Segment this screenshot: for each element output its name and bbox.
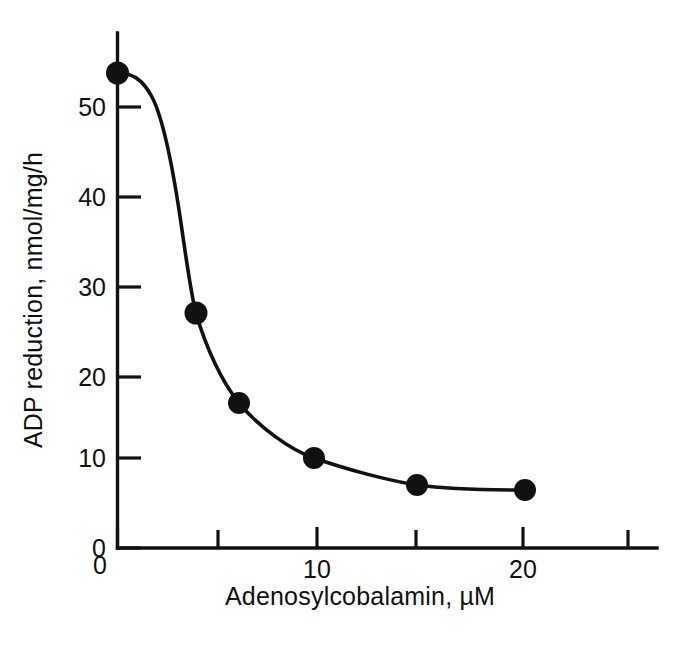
x-tick-label-20: 20	[509, 555, 537, 583]
data-point-marker	[303, 447, 325, 469]
x-axis-title: Adenosylcobalamin, µM	[225, 582, 495, 610]
y-axis-tick-labels: 50 40 30 20 10 0	[78, 93, 106, 562]
x-axis-ticks	[118, 527, 629, 547]
x-axis-tick-labels: 0 10 20	[93, 551, 537, 583]
y-tick-label-10: 10	[78, 444, 106, 472]
data-point-marker	[228, 392, 250, 414]
y-axis-ticks	[118, 107, 141, 548]
chart-plot-area: 50 40 30 20 10 0 0 10 20	[0, 0, 683, 645]
y-tick-label-20: 20	[78, 363, 106, 391]
data-point-marker	[106, 62, 129, 85]
y-axis-title: ADP reduction, nmol/mg/h	[19, 152, 47, 448]
data-curve-line	[118, 73, 526, 490]
data-point-marker	[185, 302, 208, 325]
y-tick-label-50: 50	[78, 93, 106, 121]
data-series-adp-reduction	[106, 62, 536, 502]
axis-lines	[118, 33, 658, 548]
y-tick-label-40: 40	[78, 183, 106, 211]
x-tick-label-10: 10	[303, 555, 331, 583]
y-tick-label-30: 30	[78, 273, 106, 301]
x-tick-label-0: 0	[93, 551, 107, 579]
data-point-marker	[514, 479, 536, 501]
chart-figure: 50 40 30 20 10 0 0 10 20	[0, 0, 683, 645]
data-point-marker	[406, 474, 428, 496]
